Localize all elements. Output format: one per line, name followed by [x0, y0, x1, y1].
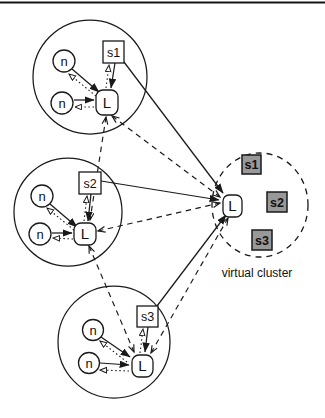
cluster-3-leader-label: L [138, 357, 146, 374]
arrow-server1-to-leader1 [111, 63, 115, 88]
arrow-s3-to-virtual-leader [157, 215, 226, 306]
arrow-node1-to-leader1 [72, 69, 99, 92]
link-leader2-virtual-leader [98, 203, 220, 231]
arrow-node1-to-leader3 [101, 337, 130, 357]
cluster-1-leader-label: L [103, 94, 111, 111]
virtual-server-s2-label: s2 [270, 196, 284, 210]
arrow-leader2-to-node1 [47, 208, 74, 230]
cluster-1-node-2-label: n [58, 96, 65, 111]
cluster-3-server-label: s3 [141, 310, 154, 324]
virtual-server-s3-label: s3 [255, 234, 269, 248]
arrow-leader2-to-node2 [53, 238, 73, 239]
cluster-3-boundary [58, 286, 170, 398]
cluster-1-node-1-label: n [60, 54, 67, 69]
arrow-node1-to-leader2 [50, 204, 77, 227]
arrow-s2-to-virtual-leader [101, 181, 219, 200]
arrow-leader1-to-server1 [106, 65, 109, 88]
cluster-3-node-1-label: n [89, 323, 96, 338]
cluster-2-leader-label: L [81, 225, 89, 242]
arrow-leader2-to-server2 [84, 196, 87, 221]
cluster-2-server-label: s2 [83, 177, 96, 191]
cluster-1-boundary [33, 20, 147, 134]
cluster-2-boundary [14, 158, 122, 266]
cluster-1-server-label: s1 [107, 46, 120, 60]
virtual-server-s1-label: s1 [245, 158, 259, 172]
cluster-diagram: n n s1 L n n s2 L n n s3 L s1 s2 s3 L vi… [0, 0, 325, 418]
arrow-leader3-to-server3 [140, 329, 143, 353]
cluster-2-node-2-label: n [36, 227, 43, 242]
arrow-s1-to-virtual-leader [124, 62, 223, 193]
arrow-server3-to-leader3 [145, 327, 148, 352]
arrow-leader3-to-node2 [100, 370, 129, 371]
virtual-cluster-caption: virtual cluster [222, 266, 293, 280]
cluster-2-node-1-label: n [38, 189, 45, 204]
link-leader3-virtual-leader [151, 218, 228, 353]
arrow-node2-to-leader3 [100, 363, 129, 365]
figure-canvas: n n s1 L n n s2 L n n s3 L s1 s2 s3 L vi… [0, 0, 325, 418]
virtual-cluster-leader-label: L [228, 197, 236, 214]
cluster-3-node-2-label: n [85, 356, 92, 371]
